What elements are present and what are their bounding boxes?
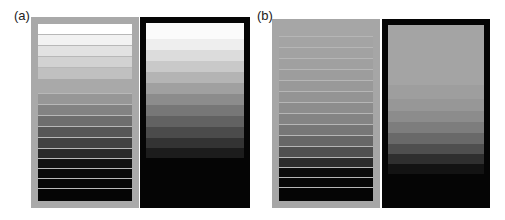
- panel-label: (b): [257, 8, 273, 23]
- gradient-step: [388, 133, 484, 144]
- gray-stripe: [279, 92, 373, 102]
- striped-grayscale-box: [272, 19, 380, 208]
- gradient-step: [146, 83, 244, 94]
- gray-stripe: [279, 136, 373, 146]
- gray-stripe: [279, 168, 373, 177]
- gray-stripe: [279, 114, 373, 124]
- gray-stripe: [279, 147, 373, 157]
- gray-stripe: [279, 188, 373, 201]
- gray-stripe: [38, 159, 132, 168]
- gray-stripe: [279, 178, 373, 187]
- gray-stripe: [279, 37, 373, 47]
- gradient-step: [146, 138, 244, 148]
- gray-stripe: [38, 138, 132, 148]
- gradient-step: [388, 99, 484, 111]
- gray-stripe: [38, 169, 132, 178]
- gradient-step: [146, 39, 244, 50]
- gray-stripe: [279, 158, 373, 167]
- gray-stripe: [38, 179, 132, 188]
- gray-stripe: [38, 116, 132, 126]
- gray-stripe: [279, 103, 373, 113]
- black-framed-gradient-box: [382, 19, 490, 208]
- gray-stripe: [38, 189, 132, 201]
- gray-stripe: [279, 48, 373, 58]
- gray-stripe: [38, 149, 132, 158]
- gray-stripe: [38, 46, 132, 56]
- striped-grayscale-box: [31, 17, 139, 208]
- gray-stripe: [279, 125, 373, 135]
- gradient-step: [388, 144, 484, 154]
- gray-stripe: [38, 57, 132, 67]
- gradient-step: [388, 122, 484, 133]
- gray-stripe: [38, 105, 132, 115]
- gradient-step: [146, 61, 244, 72]
- gradient-step: [146, 94, 244, 105]
- panel-label: (a): [14, 8, 30, 23]
- black-framed-gradient-box: [140, 17, 250, 208]
- gray-stripe: [279, 70, 373, 80]
- gradient-step: [388, 164, 484, 174]
- gray-stripe: [38, 35, 132, 45]
- gradient-step: [388, 25, 484, 85]
- gradient-step: [146, 116, 244, 127]
- gray-stripe: [279, 59, 373, 69]
- gradient-step: [388, 174, 484, 202]
- gray-stripe: [38, 127, 132, 137]
- gray-stripe: [38, 68, 132, 79]
- gradient-step: [146, 72, 244, 83]
- gradient-step: [388, 85, 484, 99]
- gradient-step: [146, 127, 244, 138]
- gray-stripe: [38, 79, 132, 93]
- gray-stripe: [38, 24, 132, 34]
- gray-stripe: [279, 81, 373, 91]
- gray-stripe: [279, 26, 373, 36]
- gradient-step: [146, 158, 244, 202]
- gradient-step: [146, 148, 244, 158]
- gradient-step: [146, 23, 244, 39]
- gradient-step: [388, 111, 484, 122]
- gray-stripe: [38, 94, 132, 104]
- gradient-step: [146, 105, 244, 116]
- gradient-step: [146, 50, 244, 61]
- gradient-step: [388, 154, 484, 164]
